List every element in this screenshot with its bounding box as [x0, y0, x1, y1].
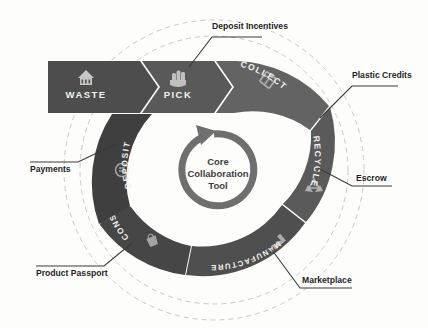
banner-segment-waste[interactable]: WASTE [48, 61, 158, 113]
hub-title-line-3: Tool [208, 180, 227, 191]
callout-label-payments: Payments [30, 164, 71, 174]
callout-plastic-credits[interactable]: Plastic Credits [320, 70, 412, 118]
ring-segment-consume[interactable]: CONSUME [0, 0, 191, 275]
hub-title-line-1: Core [207, 156, 229, 167]
callout-product-passport[interactable]: Product Passport [36, 243, 132, 278]
callout-label-escrow: Escrow [356, 173, 387, 183]
callout-label-deposit-incentives: Deposit Incentives [212, 21, 288, 31]
banner-label-waste: WASTE [66, 89, 107, 100]
callout-label-plastic-credits: Plastic Credits [352, 70, 412, 80]
ring-segment-collect[interactable]: COLLECT [216, 59, 329, 130]
callout-deposit-incentives[interactable]: Deposit Incentives [189, 21, 288, 67]
circular-economy-diagram: WASTE PICK COLLECT [0, 0, 428, 328]
ring-segment-deposit[interactable]: DEPOSIT [92, 114, 152, 224]
callout-marketplace[interactable]: Marketplace [272, 250, 352, 288]
banner-label-pick: PICK [164, 89, 192, 100]
hub-title-line-2: Collaboration [187, 168, 248, 179]
ring-segment-manufacture[interactable]: MANUFACTURE [186, 205, 305, 276]
diagram-canvas: WASTE PICK COLLECT [0, 0, 428, 328]
callout-label-product-passport: Product Passport [36, 268, 108, 278]
callout-label-marketplace: Marketplace [302, 275, 352, 285]
